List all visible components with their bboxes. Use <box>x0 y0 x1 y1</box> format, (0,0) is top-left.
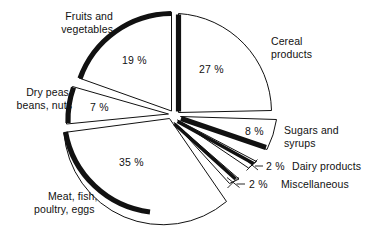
pct-label-meat-fish-poultry-eggs: 35 % <box>119 156 144 168</box>
category-label-meat-fish-poultry-eggs-line2: poultry, eggs <box>34 203 95 215</box>
category-label-dry-peas-beans-nuts: Dry peas, beans, nuts <box>17 86 72 111</box>
pct-label-dairy-products: 2 % <box>266 160 285 172</box>
category-label-sugars-and-syrups-line1: Sugars and <box>284 124 339 136</box>
category-label-fruits-and-vegetables-line2: vegetables <box>61 23 113 35</box>
pct-label-cereal-products: 27 % <box>199 63 224 75</box>
slice-cereal-products-face <box>179 14 272 113</box>
pie-chart-canvas: 19 % 27 % 7 % 35 % 8 % 2 % 2 % Fruits an… <box>0 0 377 226</box>
pct-label-fruits-and-vegetables: 19 % <box>122 54 147 66</box>
category-label-miscellaneous-line1: Miscellaneous <box>281 178 349 190</box>
pie-chart: 19 % 27 % 7 % 35 % 8 % 2 % 2 % Fruits an… <box>0 0 377 226</box>
category-label-fruits-and-vegetables-line1: Fruits and <box>65 10 113 22</box>
category-label-cereal-products: Cereal products <box>271 35 312 60</box>
category-label-cereal-products-line2: products <box>271 48 312 60</box>
pct-label-sugars-and-syrups: 8 % <box>245 125 264 137</box>
category-label-dry-peas-beans-nuts-line1: Dry peas, <box>26 86 72 98</box>
category-label-sugars-and-syrups: Sugars and syrups <box>284 124 339 149</box>
category-label-meat-fish-poultry-eggs-line1: Meat, fish, <box>48 190 98 202</box>
category-label-meat-fish-poultry-eggs: Meat, fish, poultry, eggs <box>34 190 98 215</box>
pct-label-dry-peas-beans-nuts: 7 % <box>90 101 109 113</box>
category-label-fruits-and-vegetables: Fruits and vegetables <box>61 10 113 35</box>
category-label-dairy-products-line1: Dairy products <box>292 160 361 172</box>
category-label-sugars-and-syrups-line2: syrups <box>284 137 316 149</box>
category-label-miscellaneous: Miscellaneous <box>281 178 349 190</box>
category-label-dry-peas-beans-nuts-line2: beans, nuts <box>17 99 72 111</box>
slice-cereal-products[interactable] <box>179 14 272 113</box>
category-label-dairy-products: Dairy products <box>292 160 361 172</box>
category-label-cereal-products-line1: Cereal <box>271 35 303 47</box>
pct-label-miscellaneous: 2 % <box>249 178 268 190</box>
